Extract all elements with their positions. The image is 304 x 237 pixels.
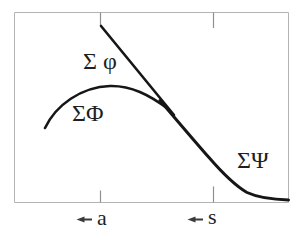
axis-ticks bbox=[101, 13, 214, 203]
curve-sigma-psi bbox=[160, 101, 289, 201]
label-a: a bbox=[97, 205, 107, 230]
curve-sigma-phi bbox=[45, 86, 169, 128]
label-sigma-psi: ΣΨ bbox=[237, 147, 269, 173]
label-sigma-phi: ΣΦ bbox=[72, 100, 104, 126]
label-s: s bbox=[208, 204, 217, 229]
left-arrow-a-icon bbox=[77, 216, 93, 222]
left-arrow-s-icon bbox=[188, 216, 204, 222]
figure: Σ φ ΣΦ ΣΨ a s bbox=[0, 0, 304, 237]
label-sigma-varphi: Σ φ bbox=[83, 48, 117, 74]
frame-border bbox=[15, 13, 289, 203]
figure-canvas: Σ φ ΣΦ ΣΨ a s bbox=[0, 0, 304, 237]
